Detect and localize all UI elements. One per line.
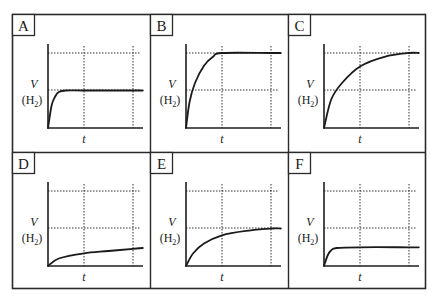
data-curve	[186, 53, 281, 128]
y-axis-label: V	[168, 215, 177, 229]
data-curve	[324, 247, 419, 266]
y-axis-label-species: (H2)	[160, 93, 181, 109]
axes	[48, 182, 143, 266]
axes	[186, 182, 281, 266]
y-axis-label: V	[306, 77, 315, 91]
data-curve	[324, 53, 419, 128]
y-axis-label: V	[30, 215, 39, 229]
panel-letter: B	[156, 18, 166, 34]
x-axis-label: t	[82, 132, 86, 146]
y-axis-label: V	[306, 215, 315, 229]
panel-b: BV(H2)t	[151, 15, 282, 147]
axes	[324, 182, 419, 266]
panel-letter: A	[18, 18, 29, 34]
y-axis-label: V	[168, 77, 177, 91]
axes	[324, 44, 419, 128]
panel-f: FV(H2)t	[289, 153, 420, 285]
panel-a: AV(H2)t	[13, 15, 144, 147]
panel-letter: C	[294, 18, 304, 34]
figure: AV(H2)tBV(H2)tCV(H2)tDV(H2)tEV(H2)tFV(H2…	[0, 0, 437, 297]
y-axis-label-species: (H2)	[298, 231, 319, 247]
y-axis-label-species: (H2)	[22, 93, 43, 109]
axes	[48, 44, 143, 128]
y-axis-label-species: (H2)	[298, 93, 319, 109]
panel-letter: E	[157, 156, 166, 172]
panel-e: EV(H2)t	[151, 153, 282, 285]
panel-d: DV(H2)t	[13, 153, 144, 285]
data-curve	[186, 228, 281, 266]
x-axis-label: t	[220, 132, 224, 146]
data-curve	[48, 90, 143, 128]
x-axis-label: t	[358, 270, 362, 284]
y-axis-label-species: (H2)	[160, 231, 181, 247]
x-axis-label: t	[358, 132, 362, 146]
panel-c: CV(H2)t	[289, 15, 420, 147]
x-axis-label: t	[82, 270, 86, 284]
axes	[186, 44, 281, 128]
x-axis-label: t	[220, 270, 224, 284]
y-axis-label-species: (H2)	[22, 231, 43, 247]
data-curve	[48, 248, 143, 266]
panel-letter: D	[18, 156, 29, 172]
panel-letter: F	[295, 156, 303, 172]
y-axis-label: V	[30, 77, 39, 91]
